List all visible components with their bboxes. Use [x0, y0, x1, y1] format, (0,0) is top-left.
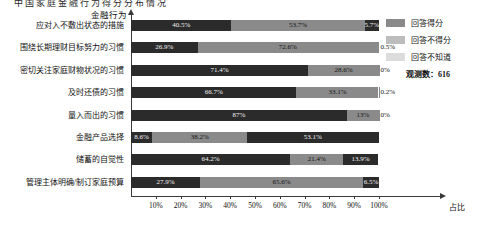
x-tick-label: 40% [223, 201, 237, 210]
segment-value-label: 8.6% [134, 134, 149, 141]
x-axis-title: 占比 [449, 201, 465, 212]
x-tick [280, 196, 281, 199]
bar-segment[interactable]: 21.4% [290, 154, 343, 165]
segment-value-label: 71.4% [210, 67, 228, 74]
x-tick-label: 90% [347, 201, 361, 210]
bar-segment[interactable]: 8.6% [131, 132, 152, 143]
bar-segment[interactable]: 87% [131, 110, 347, 121]
category-label: 应对入不敷出状态的措施 [36, 21, 124, 31]
legend-swatch-icon [386, 36, 405, 44]
segment-value-label: 0.2% [381, 89, 396, 96]
segment-value-label: 21.4% [308, 156, 326, 163]
plot-area: 40.5%53.7%5.7%26.9%72.6%0.5%71.4%28.6%0%… [131, 14, 379, 196]
x-axis-line [131, 196, 441, 197]
segment-value-label: 87% [232, 112, 245, 119]
legend: 回答得分 回答不得分 回答不知道 观测数：616 [386, 16, 478, 79]
bar-row[interactable]: 26.9%72.6%0.5% [131, 42, 379, 53]
legend-item-no-score[interactable]: 回答不得分 [386, 33, 478, 46]
x-tick [255, 196, 256, 199]
bar-row[interactable]: 27.9%65.6%6.5% [131, 177, 379, 188]
x-tick-label: 100% [370, 201, 388, 210]
segment-value-label: 0% [381, 112, 390, 119]
category-label: 金融产品选择 [76, 133, 124, 143]
category-label: 管理主体明确/制订家庭预算 [26, 178, 124, 188]
bar-segment[interactable]: 65.6% [200, 177, 363, 188]
segment-value-label: 66.7% [205, 89, 223, 96]
bar-row[interactable]: 66.7%33.1%0.2% [131, 87, 379, 98]
category-labels: 应对入不敷出状态的措施围绕长期理财目标努力的习惯密切关注家庭财物状况的习惯及时还… [0, 14, 128, 196]
x-tick [156, 196, 157, 199]
legend-label: 回答得分 [411, 17, 443, 28]
x-tick [329, 196, 330, 199]
legend-item-dont-know[interactable]: 回答不知道 [386, 50, 478, 63]
category-label: 密切关注家庭财物状况的习惯 [20, 66, 124, 76]
legend-swatch-icon [386, 53, 405, 61]
segment-value-label: 6.5% [364, 179, 379, 186]
segment-value-label: 33.1% [328, 89, 346, 96]
bar-segment[interactable]: 53.7% [231, 20, 364, 31]
legend-label: 回答不知道 [411, 51, 451, 62]
segment-value-label: 13.9% [351, 156, 369, 163]
stacked-bar-chart: 中国家庭金融行为得分分布情况 金融行为 应对入不敷出状态的措施围绕长期理财目标努… [0, 0, 479, 229]
x-tick [230, 196, 231, 199]
x-axis-arrow [440, 193, 446, 199]
segment-value-label: 38.2% [191, 134, 209, 141]
bar-segment[interactable]: 13% [347, 110, 379, 121]
legend-label: 回答不得分 [411, 34, 451, 45]
bar-segment[interactable]: 66.7% [131, 87, 296, 98]
x-tick-label: 80% [323, 201, 337, 210]
x-tick [305, 196, 306, 199]
x-tick-label: 20% [174, 201, 188, 210]
bar-segment[interactable]: 13.9% [343, 154, 377, 165]
segment-value-label: 13% [356, 112, 369, 119]
category-label: 储蓄的自觉性 [76, 155, 124, 165]
bar-segment[interactable]: 5.7% [365, 20, 379, 31]
x-tick-label: 10% [149, 201, 163, 210]
bar-row[interactable]: 71.4%28.6%0% [131, 65, 379, 76]
bar-row[interactable]: 40.5%53.7%5.7% [131, 20, 379, 31]
bar-segment[interactable]: 27.9% [131, 177, 200, 188]
x-tick-label: 60% [273, 201, 287, 210]
legend-swatch-icon [386, 19, 405, 27]
observation-count: 观测数：616 [406, 68, 478, 79]
top-caption: 中国家庭金融行为得分分布情况 [14, 0, 234, 8]
segment-value-label: 53.1% [304, 134, 322, 141]
bar-segment[interactable]: 72.6% [198, 42, 378, 53]
segment-value-label: 53.7% [289, 22, 307, 29]
segment-value-label: 65.6% [272, 179, 290, 186]
bar-segment[interactable]: 33.1% [296, 87, 378, 98]
bar-row[interactable]: 8.6%38.2%53.1% [131, 132, 379, 143]
bar-segment[interactable]: 64.2% [131, 154, 290, 165]
bar-segment[interactable]: 71.4% [131, 65, 308, 76]
segment-value-label: 64.2% [202, 156, 220, 163]
bar-segment[interactable]: 53.1% [247, 132, 379, 143]
bar-segment[interactable]: 40.5% [131, 20, 231, 31]
category-label: 及时还债的习惯 [68, 88, 124, 98]
segment-value-label: 72.6% [279, 44, 297, 51]
x-tick [354, 196, 355, 199]
x-tick-label: 50% [248, 201, 262, 210]
category-label: 围绕长期理财目标努力的习惯 [20, 43, 124, 53]
bar-row[interactable]: 87%13%0% [131, 110, 379, 121]
x-tick [181, 196, 182, 199]
bar-segment[interactable]: 26.9% [131, 42, 198, 53]
bar-row[interactable]: 64.2%21.4%13.9% [131, 154, 379, 165]
x-tick-label: 70% [298, 201, 312, 210]
x-tick-label: 30% [199, 201, 213, 210]
legend-item-score[interactable]: 回答得分 [386, 16, 478, 29]
segment-value-label: 28.6% [334, 67, 352, 74]
segment-value-label: 40.5% [172, 22, 190, 29]
segment-value-label: 26.9% [155, 44, 173, 51]
bar-segment[interactable]: 38.2% [152, 132, 247, 143]
x-tick [205, 196, 206, 199]
segment-value-label: 5.7% [364, 22, 379, 29]
segment-value-label: 27.9% [157, 179, 175, 186]
bar-segment[interactable]: 6.5% [363, 177, 379, 188]
bar-segment[interactable]: 28.6% [308, 65, 379, 76]
bar-segment[interactable] [378, 42, 379, 53]
x-tick [379, 196, 380, 199]
bar-segment[interactable] [379, 87, 380, 98]
category-label: 量入而出的习惯 [68, 111, 124, 121]
